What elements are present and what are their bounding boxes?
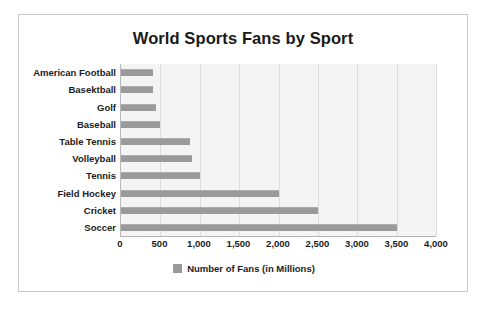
category-label: Golf	[19, 98, 120, 115]
category-label: Table Tennis	[19, 133, 120, 150]
x-tick-label: 500	[152, 238, 168, 249]
plot-region: American FootballBasektballGolfBaseballT…	[19, 50, 469, 250]
x-tick-label: 1,500	[227, 238, 251, 249]
x-tick-label: 1,000	[187, 238, 211, 249]
x-tick-label: 2,000	[266, 238, 290, 249]
bar-row[interactable]	[121, 133, 436, 150]
plot-area	[120, 64, 436, 236]
bar[interactable]	[121, 207, 318, 214]
bar[interactable]	[121, 121, 160, 128]
category-label: Tennis	[19, 167, 120, 184]
chart-legend: Number of Fans (in Millions)	[19, 263, 469, 274]
bar[interactable]	[121, 155, 192, 162]
bar-row[interactable]	[121, 81, 436, 98]
gridline	[436, 64, 437, 236]
bar[interactable]	[121, 86, 153, 93]
bar[interactable]	[121, 104, 156, 111]
bar[interactable]	[121, 172, 200, 179]
bar-row[interactable]	[121, 202, 436, 219]
chart-card: World Sports Fans by Sport American Foot…	[18, 14, 468, 292]
legend-label: Number of Fans (in Millions)	[187, 263, 315, 274]
bar[interactable]	[121, 190, 279, 197]
x-tick-label: 2,500	[306, 238, 330, 249]
x-axis-line	[120, 236, 436, 237]
x-tick-label: 3,000	[345, 238, 369, 249]
bar[interactable]	[121, 138, 190, 145]
category-label: Soccer	[19, 219, 120, 236]
legend-swatch-icon	[173, 264, 182, 273]
category-label: Basektball	[19, 81, 120, 98]
bar-row[interactable]	[121, 150, 436, 167]
bar[interactable]	[121, 69, 153, 76]
category-label: American Football	[19, 64, 120, 81]
x-tick-label: 4,000	[424, 238, 448, 249]
category-label: Baseball	[19, 116, 120, 133]
bar-row[interactable]	[121, 64, 436, 81]
category-label: Field Hockey	[19, 184, 120, 201]
x-tick-label: 0	[117, 238, 122, 249]
bar-row[interactable]	[121, 98, 436, 115]
bar-row[interactable]	[121, 167, 436, 184]
category-axis: American FootballBasektballGolfBaseballT…	[19, 64, 120, 236]
bar-row[interactable]	[121, 116, 436, 133]
bar-series	[121, 64, 436, 236]
bar-row[interactable]	[121, 219, 436, 236]
bar[interactable]	[121, 224, 397, 231]
chart-title: World Sports Fans by Sport	[19, 29, 467, 48]
bar-row[interactable]	[121, 184, 436, 201]
category-label: Volleyball	[19, 150, 120, 167]
x-axis-ticks: 05001,0001,5002,0002,5003,0003,5004,000	[120, 238, 436, 252]
category-label: Cricket	[19, 202, 120, 219]
x-tick-label: 3,500	[385, 238, 409, 249]
